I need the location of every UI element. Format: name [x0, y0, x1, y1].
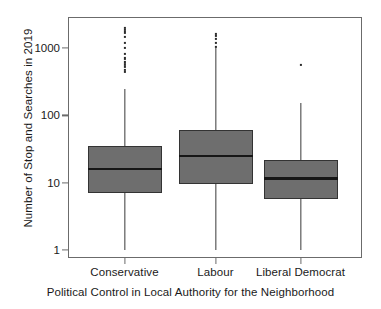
- boxplot-outlier-point: [123, 61, 125, 63]
- x-axis-label: Political Control in Local Authority for…: [0, 286, 381, 298]
- boxplot-outlier-point: [299, 64, 301, 66]
- boxplot-upper-whisker: [124, 89, 125, 146]
- boxplot-lower-whisker: [300, 199, 301, 250]
- boxplot-outlier-point: [214, 33, 216, 35]
- boxplot-median-line: [88, 168, 162, 171]
- x-axis-tick-label: Liberal Democrat: [256, 266, 345, 278]
- boxplot-outlier-point: [123, 57, 125, 59]
- boxplot-outlier-point: [123, 36, 125, 38]
- boxplot-outlier-point: [123, 27, 125, 29]
- x-axis-tick-mark: [215, 258, 216, 264]
- boxplot-median-line: [264, 177, 338, 180]
- boxplot-lower-whisker: [124, 193, 125, 250]
- boxplot-outlier-point: [123, 69, 125, 71]
- boxplot-outlier-point: [123, 53, 125, 55]
- boxplot-box: [179, 130, 253, 184]
- boxplot-outlier-point: [123, 29, 125, 31]
- x-axis-tick-mark: [124, 258, 125, 264]
- boxplot-median-line: [179, 155, 253, 158]
- boxplot-lower-whisker: [215, 184, 216, 250]
- boxplot-series: ConservativeLabourLiberal Democrat: [0, 0, 381, 309]
- boxplot-outlier-point: [214, 42, 216, 44]
- boxplot-outlier-point: [123, 71, 125, 73]
- boxplot-upper-whisker: [300, 103, 301, 159]
- boxplot-outlier-point: [123, 31, 125, 33]
- boxplot-outlier-point: [123, 47, 125, 49]
- boxplot-outlier-point: [123, 66, 125, 68]
- boxplot-outlier-point: [214, 35, 216, 37]
- boxplot-outlier-point: [123, 64, 125, 66]
- x-axis-tick-mark: [300, 258, 301, 264]
- x-axis-tick-label: Conservative: [90, 266, 158, 278]
- boxplot-figure: Number of Stop and Searches in 2019 1000…: [0, 0, 381, 309]
- boxplot-outlier-point: [214, 45, 216, 47]
- boxplot-upper-whisker: [215, 48, 216, 130]
- x-axis-tick-label: Labour: [197, 266, 233, 278]
- boxplot-outlier-point: [214, 38, 216, 40]
- boxplot-outlier-point: [123, 42, 125, 44]
